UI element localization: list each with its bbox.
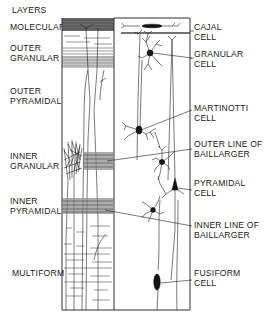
cell-label-inner-baillarger-2: BAILLARGER bbox=[194, 230, 250, 240]
cell-label-martinotti-2: CELL bbox=[194, 113, 216, 123]
layers-title: LAYERS bbox=[12, 5, 47, 15]
layer-label-molecular: MOLECULAR bbox=[10, 22, 65, 32]
multiform-hatching bbox=[64, 226, 112, 300]
granular-cell-drawing bbox=[134, 30, 176, 180]
martinotti-cell-drawing bbox=[122, 60, 160, 148]
cell-label-granular-2: CELL bbox=[194, 59, 216, 69]
leader-lines bbox=[105, 31, 194, 283]
dendritic-arbor bbox=[64, 140, 82, 310]
histology-column bbox=[62, 18, 190, 310]
cell-label-fusiform-1: FUSIFORM bbox=[194, 268, 240, 278]
cell-label-cajal-1: CAJAL bbox=[194, 22, 222, 32]
small-pyramidal-cell-drawing bbox=[152, 146, 174, 180]
layer-label-outer-granular-1: OUTER bbox=[10, 43, 41, 53]
cortex-layers-diagram: LAYERS MOLECULAR OUTER GRANULAR OUTER PY… bbox=[0, 0, 271, 324]
lower-pyramidal-cell-drawing bbox=[142, 196, 164, 222]
layer-label-outer-pyramidal-2: PYRAMIDAL bbox=[10, 96, 61, 106]
fusiform-cell-drawing bbox=[154, 200, 178, 310]
layer-label-inner-pyramidal-1: INNER bbox=[10, 196, 38, 206]
outer-baillarger-band bbox=[84, 152, 114, 170]
cell-label-outer-baillarger-1: OUTER LINE OF bbox=[194, 139, 263, 149]
cajal-cell-drawing bbox=[121, 23, 190, 33]
layer-label-multiform: MULTIFORM bbox=[12, 268, 64, 278]
cell-label-martinotti-1: MARTINOTTI bbox=[194, 103, 248, 113]
cell-label-cajal-2: CELL bbox=[194, 32, 216, 42]
cell-label-pyramidal-1: PYRAMIDAL bbox=[194, 178, 245, 188]
inner-baillarger-band bbox=[62, 198, 114, 214]
cell-label-outer-baillarger-2: BAILLARGER bbox=[194, 149, 250, 159]
layer-label-outer-granular-2: GRANULAR bbox=[10, 53, 59, 63]
cell-label-pyramidal-2: CELL bbox=[194, 188, 216, 198]
cell-column bbox=[114, 18, 190, 310]
layer-labels: MOLECULAR OUTER GRANULAR OUTER PYRAMIDAL… bbox=[10, 22, 65, 278]
cell-label-fusiform-2: CELL bbox=[194, 278, 216, 288]
cell-labels: CAJAL CELL GRANULAR CELL MARTINOTTI CELL… bbox=[194, 22, 263, 288]
layer-label-inner-granular-2: GRANULAR bbox=[10, 161, 59, 171]
cell-label-inner-baillarger-1: INNER LINE OF bbox=[194, 220, 259, 230]
layer-label-inner-granular-1: INNER bbox=[10, 151, 38, 161]
layer-label-inner-pyramidal-2: PYRAMIDAL bbox=[10, 206, 61, 216]
layer-label-outer-pyramidal-1: OUTER bbox=[10, 86, 41, 96]
cell-label-granular-1: GRANULAR bbox=[194, 49, 243, 59]
